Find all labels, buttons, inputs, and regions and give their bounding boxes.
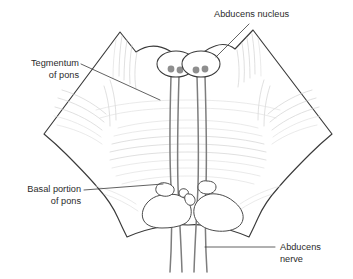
tegmentum-of-pons-label-line1: Tegmentum: [31, 58, 79, 68]
abducens-nucleus-label: Abducens nucleus: [214, 9, 289, 19]
abducens-nuclei: [157, 51, 220, 77]
right-abducens-nucleus: [182, 51, 220, 77]
pons-anatomy-diagram: Abducens nucleus Tegmentum of pons Basal…: [0, 0, 353, 279]
left-nucleus-dot-medial: [168, 66, 175, 73]
right-basal-pons-tiny-blob: [185, 194, 195, 205]
basal-portion-of-pons-label-line1: Basal portion: [27, 184, 81, 194]
tegmentum-of-pons-label-line2: of pons: [49, 70, 80, 80]
left-basal-pons-small-blob: [156, 183, 174, 197]
right-basal-pons-small-blob: [198, 181, 216, 194]
right-nucleus-dot-lateral: [202, 66, 209, 73]
basal-portion-of-pons-label-line2: of pons: [51, 196, 82, 206]
abducens-nerve-label-line2: nerve: [280, 254, 303, 264]
abducens-nerve-label-line1: Abducens: [280, 242, 321, 252]
right-nucleus-dot-medial: [193, 67, 200, 74]
